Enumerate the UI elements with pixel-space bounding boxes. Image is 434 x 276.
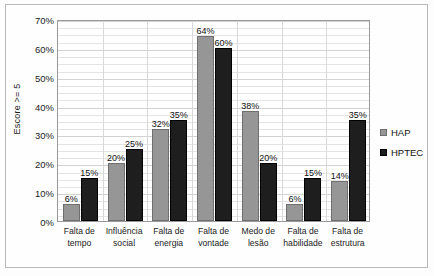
- bar-hap-4: [242, 111, 259, 221]
- category-separator: [103, 21, 104, 221]
- bar-hptec-6: [349, 120, 366, 221]
- legend-label: HPTEC: [391, 147, 423, 158]
- bar-hptec-1: [126, 149, 143, 221]
- bar-hap-0: [63, 204, 80, 221]
- x-axis-label-line: tempo: [64, 238, 95, 250]
- x-axis-label-4: Medo delesão: [241, 226, 274, 249]
- x-axis-label-line: lesão: [241, 238, 274, 250]
- y-axis-tick: 60%: [18, 43, 54, 54]
- bar-value-label: 35%: [170, 110, 188, 120]
- y-axis-tick: 70%: [18, 15, 54, 26]
- x-axis-label-line: Falta de: [153, 226, 184, 238]
- chart-legend: HAPHPTEC: [380, 124, 423, 164]
- y-axis-tick: 40%: [18, 101, 54, 112]
- bar-value-label: 64%: [196, 26, 214, 36]
- bar-hptec-0: [81, 178, 98, 221]
- bar-value-label: 20%: [107, 153, 125, 163]
- category-separator: [237, 21, 238, 221]
- x-axis-label-2: Falta deenergia: [153, 226, 184, 249]
- bar-hap-5: [286, 204, 303, 221]
- bar-value-label: 14%: [331, 171, 349, 181]
- bar-value-label: 15%: [304, 168, 322, 178]
- x-axis-label-5: Falta dehabilidade: [283, 226, 322, 249]
- y-axis-tick: 10%: [18, 188, 54, 199]
- bar-value-label: 35%: [349, 110, 367, 120]
- bar-value-label: 20%: [259, 153, 277, 163]
- y-axis-tick: 50%: [18, 72, 54, 83]
- bar-hptec-3: [215, 48, 232, 221]
- y-axis-tick: 0%: [18, 217, 54, 228]
- y-axis-tick-labels: 0%10%20%30%40%50%60%70%: [18, 20, 54, 222]
- bar-value-label: 25%: [125, 139, 143, 149]
- legend-label: HAP: [391, 127, 411, 138]
- x-axis-label-line: Influência: [106, 226, 143, 238]
- y-axis-tick: 30%: [18, 130, 54, 141]
- category-separator: [192, 21, 193, 221]
- x-axis-label-line: Falta de: [283, 226, 322, 238]
- legend-swatch-icon: [380, 129, 387, 136]
- bars-layer: 6%15%20%25%32%35%64%60%38%20%6%15%14%35%: [58, 21, 369, 221]
- x-axis-label-line: social: [106, 238, 143, 250]
- x-axis-label-1: Influênciasocial: [106, 226, 143, 249]
- bar-hap-6: [331, 181, 348, 221]
- legend-swatch-icon: [380, 149, 387, 156]
- x-axis-label-line: Falta de: [64, 226, 95, 238]
- category-separator: [282, 21, 283, 221]
- y-axis-tick: 20%: [18, 159, 54, 170]
- x-axis-label-line: habilidade: [283, 238, 322, 250]
- category-separator: [326, 21, 327, 221]
- plot-area: 6%15%20%25%32%35%64%60%38%20%6%15%14%35%: [57, 20, 370, 222]
- bar-value-label: 15%: [80, 168, 98, 178]
- x-axis-label-3: Falta devontade: [198, 226, 229, 249]
- bar-hap-3: [197, 36, 214, 221]
- bar-hap-1: [108, 163, 125, 221]
- legend-item-hap[interactable]: HAP: [380, 124, 423, 140]
- chart-screenshot: Escore >= 5 0%10%20%30%40%50%60%70% 6%15…: [0, 0, 434, 276]
- x-axis-label-line: Falta de: [331, 226, 365, 238]
- x-axis-label-0: Falta detempo: [64, 226, 95, 249]
- x-axis-label-line: vontade: [198, 238, 229, 250]
- bar-value-label: 60%: [214, 38, 232, 48]
- bar-hptec-2: [170, 120, 187, 221]
- x-axis-label-line: Medo de: [241, 226, 274, 238]
- bar-hptec-4: [260, 163, 277, 221]
- x-axis-label-6: Falta deestrutura: [331, 226, 365, 249]
- bar-value-label: 6%: [288, 194, 301, 204]
- bar-hptec-5: [304, 178, 321, 221]
- legend-item-hptec[interactable]: HPTEC: [380, 144, 423, 160]
- category-separator: [147, 21, 148, 221]
- x-axis-label-line: energia: [153, 238, 184, 250]
- bar-value-label: 38%: [241, 101, 259, 111]
- bar-value-label: 32%: [152, 119, 170, 129]
- x-axis-label-line: Falta de: [198, 226, 229, 238]
- bar-hap-2: [152, 129, 169, 221]
- x-axis-category-labels: Falta detempoInfluênciasocialFalta deene…: [57, 226, 370, 262]
- x-axis-label-line: estrutura: [331, 238, 365, 250]
- bar-value-label: 6%: [65, 194, 78, 204]
